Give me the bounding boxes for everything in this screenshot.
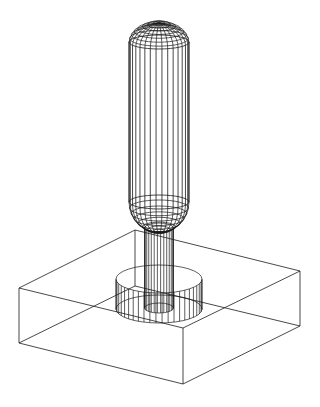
handle-cylinder bbox=[129, 21, 189, 234]
shaft-cylinder bbox=[145, 223, 174, 313]
base-block bbox=[19, 230, 300, 384]
wireframe-drawing bbox=[0, 0, 320, 407]
wireframe-svg bbox=[0, 0, 320, 407]
collar-cylinder bbox=[116, 265, 202, 323]
